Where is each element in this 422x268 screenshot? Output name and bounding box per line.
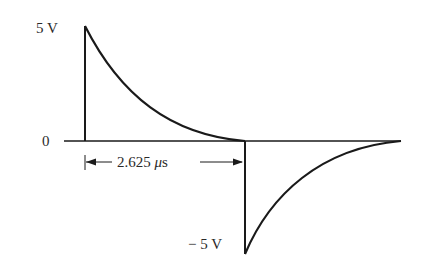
- duration-label: 2.625 μs: [114, 155, 171, 170]
- arrowhead-left-icon: [86, 159, 96, 166]
- negative-decay-curve: [245, 141, 401, 254]
- negative-peak-label: − 5 V: [188, 237, 222, 252]
- duration-unit-s: s: [162, 154, 168, 170]
- zero-label: 0: [42, 134, 50, 149]
- duration-value: 2.625: [117, 154, 155, 170]
- arrowhead-right-icon: [233, 159, 243, 166]
- waveform-diagram: [0, 0, 422, 268]
- positive-peak-label: 5 V: [36, 21, 58, 36]
- positive-decay-curve: [85, 26, 245, 141]
- duration-unit-mu: μ: [155, 154, 163, 170]
